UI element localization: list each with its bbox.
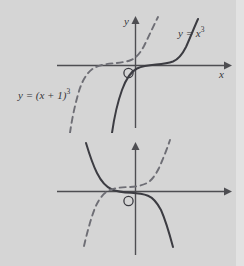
x-axis-arrow-bottom [224,188,232,196]
equation-label-x-plus-1-cubed-top: y = (x + 1)3 [18,88,70,101]
equation-label-x-plus-1-cubed-top-exponent: 3 [66,87,70,96]
y-axis-arrow-top [132,16,140,24]
x-axis-arrow-top [224,62,232,70]
chart-panel-top: y x y = x3 y = (x + 1)3 [0,0,244,133]
equation-label-x-cubed-exponent: 3 [201,25,205,34]
y-axis-arrow-bottom [132,142,140,150]
x-axis-label-top: x [219,69,224,80]
curve-solid-negative-x-plus-1-cubed-bottom [86,143,173,247]
bottom-panel-svg [0,133,244,266]
chart-panel-bottom: y x y = −(x + 1)3 y = (x + 1)3 [0,133,244,266]
y-axis-label-top: y [124,16,129,27]
figure-container: y x y = x3 y = (x + 1)3 y x y = −( [0,0,244,266]
equation-label-x-cubed-text: y = x [178,27,201,39]
top-panel-svg [0,0,244,133]
equation-label-x-plus-1-cubed-top-text: y = (x + 1) [18,89,66,101]
equation-label-x-cubed: y = x3 [178,26,204,39]
origin-marker-bottom [124,196,133,205]
